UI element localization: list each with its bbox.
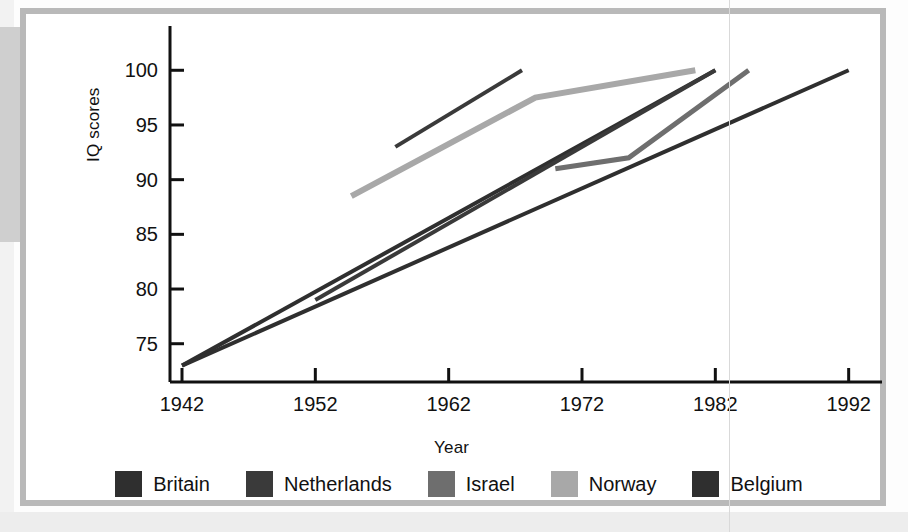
series-line-israel: [555, 70, 748, 168]
x-axis-title: Year: [434, 438, 469, 458]
page-bottom-band: [0, 512, 908, 532]
legend-label: Belgium: [730, 473, 802, 496]
legend-label: Britain: [153, 473, 210, 496]
x-tick-label: 1942: [160, 393, 205, 415]
x-tick-label: 1952: [293, 393, 338, 415]
legend-swatch-icon: [246, 471, 273, 497]
legend-swatch-icon: [551, 471, 578, 497]
legend-swatch-icon: [692, 471, 719, 497]
plot-area: 7580859095100194219521962197219821992 IQ…: [26, 14, 892, 434]
y-tick-label: 95: [136, 114, 158, 136]
y-tick-label: 100: [125, 59, 158, 81]
legend-item-belgium: Belgium: [692, 471, 802, 497]
figure-inner: 7580859095100194219521962197219821992 IQ…: [26, 14, 880, 500]
page-seam-line: [729, 0, 730, 532]
line-chart: 7580859095100194219521962197219821992: [26, 14, 892, 434]
y-axis-title: IQ scores: [84, 87, 104, 162]
legend-item-britain: Britain: [115, 471, 210, 497]
legend-item-israel: Israel: [428, 471, 515, 497]
legend-swatch-icon: [428, 471, 455, 497]
legend-swatch-icon: [115, 471, 142, 497]
legend-label: Israel: [466, 473, 515, 496]
x-tick-label: 1962: [426, 393, 471, 415]
y-tick-label: 80: [136, 278, 158, 300]
y-tick-label: 85: [136, 223, 158, 245]
legend-label: Netherlands: [284, 473, 392, 496]
legend-item-netherlands: Netherlands: [246, 471, 392, 497]
legend-label: Norway: [589, 473, 657, 496]
page-canvas: 7580859095100194219521962197219821992 IQ…: [0, 0, 908, 532]
y-tick-label: 75: [136, 333, 158, 355]
x-tick-label: 1992: [826, 393, 871, 415]
series-line-belgium: [182, 70, 849, 365]
x-tick-label: 1972: [560, 393, 605, 415]
chart-legend: BritainNetherlandsIsraelNorwayBelgium: [26, 462, 892, 506]
figure-frame: 7580859095100194219521962197219821992 IQ…: [20, 8, 886, 506]
legend-item-norway: Norway: [551, 471, 657, 497]
y-tick-label: 90: [136, 169, 158, 191]
x-tick-label: 1982: [693, 393, 738, 415]
